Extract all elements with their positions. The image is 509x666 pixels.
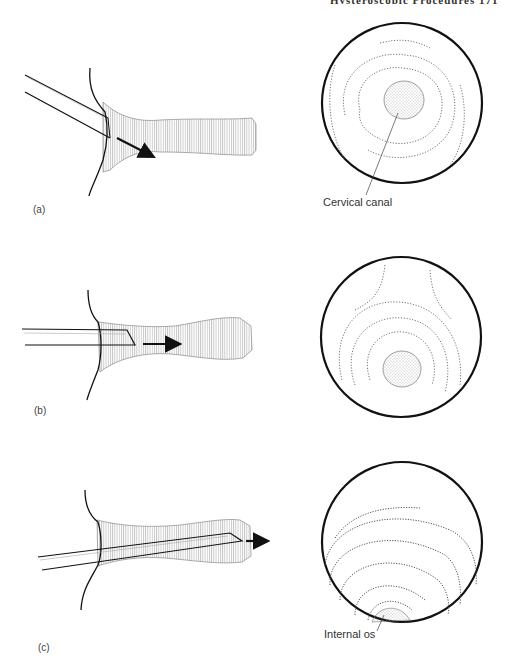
view-circle <box>322 462 482 622</box>
panel-c-side-view <box>38 490 266 610</box>
cervix-hatched-body <box>103 102 256 172</box>
callout-internal-os: Internal os <box>324 628 375 640</box>
cervical-canal-opening <box>383 351 421 387</box>
panel-label-a: (a) <box>33 204 45 215</box>
figure-canvas <box>0 0 509 666</box>
panel-a-side-view <box>25 68 256 196</box>
panel-b-endoscopic-view <box>321 257 481 417</box>
view-circle <box>321 257 481 417</box>
callout-cervical-canal: Cervical canal <box>323 196 392 208</box>
panel-b-side-view <box>22 290 252 400</box>
panel-a-endoscopic-view <box>322 23 482 195</box>
cervical-canal-opening <box>384 81 424 119</box>
hysteroscope-sheath <box>25 75 110 138</box>
panel-label-b: (b) <box>34 405 46 416</box>
panel-c-endoscopic-view <box>322 462 482 631</box>
panel-label-c: (c) <box>38 642 50 653</box>
